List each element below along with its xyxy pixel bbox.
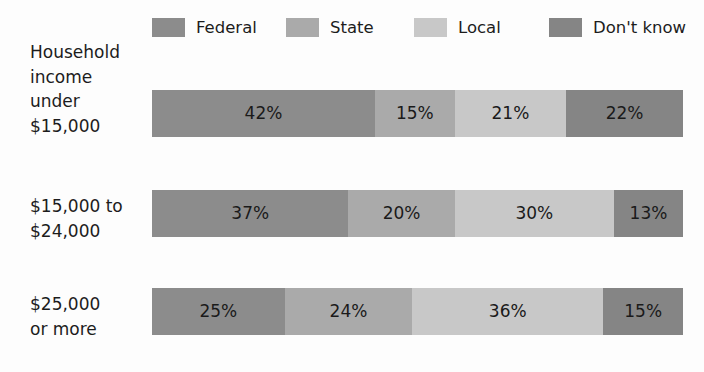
bar-segment-value: 36% bbox=[489, 303, 527, 320]
legend-label-local: Local bbox=[458, 18, 501, 37]
chart-row: $25,000 or more 25% 24% 36% 15% bbox=[0, 288, 704, 340]
legend-label-federal: Federal bbox=[196, 18, 257, 37]
bar-segment-state: 15% bbox=[375, 90, 455, 137]
bar-segment-value: 20% bbox=[383, 205, 421, 222]
chart-row: $15,000 to $24,000 37% 20% 30% 13% bbox=[0, 190, 704, 242]
chart-legend: Federal State Local Don't know bbox=[152, 14, 692, 40]
bar-segment-dont-know: 15% bbox=[603, 288, 683, 335]
bar-segment-federal: 42% bbox=[152, 90, 375, 137]
row-category-label: Household income under $15,000 bbox=[30, 40, 150, 138]
bar-segment-value: 42% bbox=[245, 105, 283, 122]
legend-swatch-local bbox=[414, 18, 447, 37]
bar-segment-value: 13% bbox=[630, 205, 668, 222]
legend-item-local: Local bbox=[414, 14, 549, 40]
stacked-bar-chart: Federal State Local Don't know Household… bbox=[0, 0, 704, 372]
bar-segment-dont-know: 13% bbox=[614, 190, 683, 237]
legend-swatch-state bbox=[286, 18, 319, 37]
bar-segment-value: 15% bbox=[396, 105, 434, 122]
bar-segment-value: 25% bbox=[199, 303, 237, 320]
bar-segment-federal: 25% bbox=[152, 288, 285, 335]
row-category-label: $25,000 or more bbox=[30, 292, 150, 341]
bar-segment-value: 24% bbox=[330, 303, 368, 320]
bar-segment-value: 22% bbox=[606, 105, 644, 122]
bar-segment-state: 24% bbox=[285, 288, 412, 335]
bar-segment-local: 36% bbox=[412, 288, 603, 335]
bar-segment-federal: 37% bbox=[152, 190, 348, 237]
legend-swatch-federal bbox=[152, 18, 185, 37]
bar-segment-value: 15% bbox=[624, 303, 662, 320]
stacked-bar: 25% 24% 36% 15% bbox=[152, 288, 683, 335]
bar-segment-state: 20% bbox=[348, 190, 454, 237]
stacked-bar: 37% 20% 30% 13% bbox=[152, 190, 683, 237]
legend-item-federal: Federal bbox=[152, 14, 286, 40]
bar-segment-value: 37% bbox=[231, 205, 269, 222]
bar-segment-value: 21% bbox=[492, 105, 530, 122]
stacked-bar: 42% 15% 21% 22% bbox=[152, 90, 683, 137]
chart-row: Household income under $15,000 42% 15% 2… bbox=[0, 40, 704, 142]
legend-item-dont-know: Don't know bbox=[549, 14, 692, 40]
bar-segment-local: 30% bbox=[455, 190, 614, 237]
bar-segment-local: 21% bbox=[455, 90, 567, 137]
legend-label-dont-know: Don't know bbox=[593, 18, 686, 37]
legend-item-state: State bbox=[286, 14, 414, 40]
row-category-label: $15,000 to $24,000 bbox=[30, 194, 150, 243]
bar-segment-value: 30% bbox=[515, 205, 553, 222]
bar-segment-dont-know: 22% bbox=[566, 90, 683, 137]
legend-swatch-dont-know bbox=[549, 18, 582, 37]
legend-label-state: State bbox=[330, 18, 374, 37]
